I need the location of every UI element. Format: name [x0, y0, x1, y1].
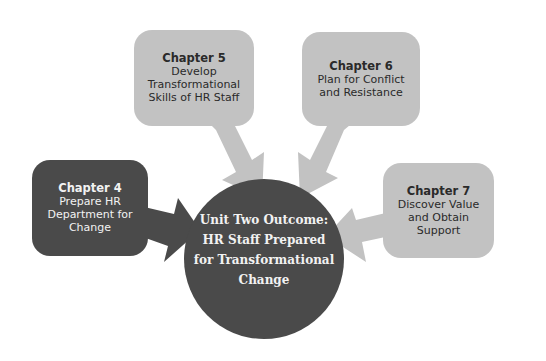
- chapter-4-line-1: Prepare HR: [59, 195, 121, 208]
- chapter-4-line-3: Change: [69, 221, 111, 234]
- chapter-6-title: Chapter 6: [329, 60, 393, 73]
- chapter-7-line-3: Support: [417, 224, 460, 237]
- chapter-7-line-2: and Obtain: [408, 211, 469, 224]
- chapter-7-line-1: Discover Value: [398, 198, 480, 211]
- diagram: Chapter 4 Prepare HR Department for Chan…: [0, 0, 546, 361]
- chapter-7-box: Chapter 7 Discover Value and Obtain Supp…: [383, 163, 494, 258]
- chapter-4-box: Chapter 4 Prepare HR Department for Chan…: [32, 160, 148, 256]
- chapter-6-box: Chapter 6 Plan for Conflict and Resistan…: [302, 32, 420, 126]
- arrow-chapter-6: [298, 120, 356, 198]
- chapter-5-box: Chapter 5 Develop Transformational Skill…: [134, 30, 254, 126]
- outcome-text: Unit Two Outcome: HR Staff Prepared for …: [185, 210, 343, 290]
- chapter-4-title: Chapter 4: [58, 182, 122, 195]
- outcome-line-2: HR Staff Prepared: [185, 230, 343, 250]
- chapter-6-line-2: and Resistance: [319, 86, 402, 99]
- outcome-line-4: Change: [185, 270, 343, 290]
- chapter-5-line-2: Transformational: [148, 78, 240, 91]
- chapter-7-title: Chapter 7: [407, 185, 471, 198]
- chapter-4-line-2: Department for: [47, 208, 132, 221]
- chapter-5-line-1: Develop: [171, 65, 216, 78]
- chapter-5-line-3: Skills of HR Staff: [149, 91, 240, 104]
- outcome-line-3: for Transformational: [185, 250, 343, 270]
- chapter-6-line-1: Plan for Conflict: [317, 73, 404, 86]
- chapter-5-title: Chapter 5: [162, 52, 226, 65]
- outcome-line-1: Unit Two Outcome:: [185, 210, 343, 230]
